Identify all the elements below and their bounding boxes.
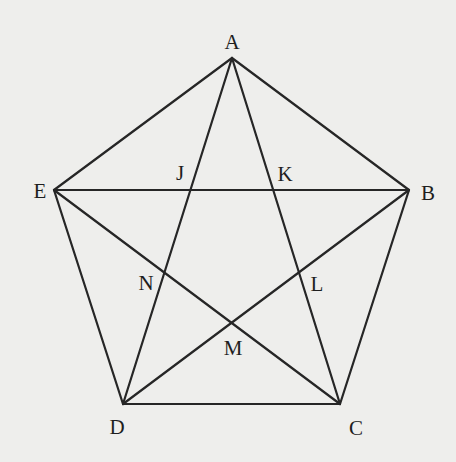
point-label-j: J — [176, 161, 184, 185]
point-label-a: A — [224, 30, 240, 54]
point-label-d: D — [109, 415, 124, 439]
pentagon-diagram: ABCDEJKLMN — [0, 0, 456, 462]
side-de — [54, 190, 123, 404]
pentagon-figure-canvas: ABCDEJKLMN — [0, 0, 456, 462]
side-ab — [232, 58, 409, 190]
diagonal-bd — [123, 190, 409, 404]
diagonal-ce — [54, 190, 340, 404]
label-group: ABCDEJKLMN — [34, 30, 435, 440]
point-label-e: E — [34, 179, 47, 203]
point-label-m: M — [224, 336, 243, 360]
side-ea — [54, 58, 232, 190]
point-label-c: C — [349, 416, 363, 440]
point-label-n: N — [138, 271, 153, 295]
diagonal-ac — [232, 58, 340, 404]
point-label-l: L — [311, 272, 324, 296]
diagonal-ad — [123, 58, 232, 404]
point-label-b: B — [421, 181, 435, 205]
point-label-k: K — [277, 162, 292, 186]
side-bc — [340, 190, 409, 404]
